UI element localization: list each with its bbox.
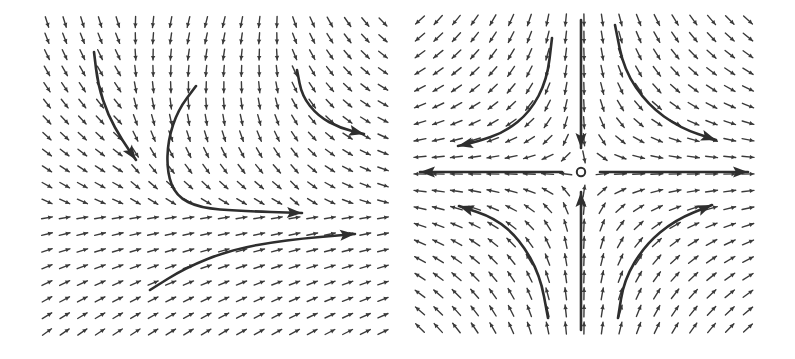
field-arrow-icon	[743, 307, 752, 315]
field-arrow-icon	[414, 155, 426, 159]
field-arrow-icon	[526, 238, 533, 248]
field-arrow-icon	[654, 15, 660, 26]
field-arrow-icon	[310, 17, 315, 27]
field-arrow-icon	[237, 182, 245, 189]
field-arrow-icon	[77, 232, 88, 236]
field-arrow-icon	[508, 15, 513, 26]
field-arrow-icon	[433, 68, 443, 75]
field-arrow-icon	[636, 305, 641, 316]
field-arrow-icon	[186, 49, 190, 60]
field-arrow-icon	[42, 215, 53, 219]
field-arrow-icon	[508, 32, 514, 43]
field-arrow-icon	[165, 232, 176, 236]
field-arrow-icon	[342, 264, 353, 268]
field-arrow-icon	[508, 323, 513, 334]
field-arrow-icon	[470, 273, 479, 281]
field-arrow-icon	[361, 84, 370, 91]
field-arrow-icon	[79, 99, 86, 108]
field-arrow-icon	[360, 200, 370, 204]
field-arrow-icon	[637, 14, 642, 25]
field-arrow-icon	[524, 205, 534, 212]
field-arrow-icon	[151, 17, 155, 28]
field-arrow-icon	[615, 188, 626, 193]
field-arrow-icon	[432, 189, 444, 193]
field-arrow-icon	[616, 136, 625, 144]
field-arrow-icon	[169, 82, 173, 93]
field-arrow-icon	[669, 189, 681, 193]
field-arrow-icon	[79, 83, 85, 92]
field-arrow-icon	[688, 223, 699, 228]
field-arrow-icon	[724, 206, 736, 210]
field-arrow-icon	[113, 329, 122, 335]
field-arrow-icon	[257, 33, 261, 44]
field-arrow-icon	[113, 199, 123, 204]
field-arrow-icon	[378, 330, 388, 335]
field-arrow-icon	[290, 297, 300, 302]
field-arrow-icon	[524, 188, 535, 193]
field-arrow-icon	[59, 232, 70, 236]
field-arrow-icon	[236, 215, 247, 219]
field-arrow-icon	[582, 305, 586, 317]
field-arrow-icon	[452, 256, 462, 263]
field-arrow-icon	[600, 14, 604, 26]
field-arrow-icon	[60, 264, 70, 269]
field-arrow-icon	[600, 288, 604, 300]
field-arrow-icon	[743, 51, 753, 58]
field-arrow-icon	[98, 50, 103, 60]
field-arrow-icon	[434, 33, 443, 41]
field-arrow-icon	[221, 164, 228, 173]
field-arrow-icon	[166, 264, 176, 268]
field-arrow-icon	[378, 281, 388, 285]
field-arrow-icon	[130, 215, 141, 219]
field-arrow-icon	[505, 155, 517, 159]
field-arrow-icon	[544, 118, 551, 128]
field-arrow-icon	[133, 17, 137, 28]
vector-field-figure	[0, 0, 795, 359]
field-arrow-icon	[219, 329, 229, 335]
field-arrow-icon	[293, 33, 298, 43]
field-arrow-icon	[360, 264, 371, 268]
field-arrow-icon	[201, 199, 211, 205]
saddle-point-marker	[577, 168, 585, 176]
field-arrow-icon	[61, 133, 69, 140]
field-arrow-icon	[653, 84, 661, 93]
field-arrow-icon	[59, 215, 70, 219]
field-arrow-icon	[221, 17, 225, 28]
field-arrow-icon	[77, 264, 87, 269]
field-arrow-icon	[470, 102, 480, 108]
field-arrow-icon	[636, 32, 641, 43]
field-arrow-icon	[204, 98, 208, 109]
field-arrow-icon	[240, 131, 244, 141]
field-arrow-icon	[563, 134, 568, 145]
field-arrow-icon	[507, 238, 515, 247]
field-arrow-icon	[453, 15, 461, 24]
field-arrow-icon	[237, 297, 247, 302]
field-arrow-icon	[327, 17, 332, 27]
field-arrow-icon	[290, 313, 300, 318]
field-arrow-icon	[525, 119, 534, 127]
field-arrow-icon	[113, 166, 122, 172]
field-arrow-icon	[416, 307, 425, 315]
field-arrow-icon	[131, 199, 141, 205]
field-arrow-icon	[653, 67, 660, 77]
field-arrow-icon	[378, 200, 389, 204]
field-arrow-icon	[360, 330, 370, 335]
field-arrow-icon	[275, 17, 279, 28]
field-arrow-icon	[725, 307, 734, 315]
field-arrow-icon	[707, 68, 717, 75]
field-arrow-icon	[672, 32, 679, 42]
field-arrow-icon	[688, 120, 699, 125]
field-arrow-icon	[219, 281, 229, 286]
field-arrow-icon	[222, 66, 226, 77]
field-arrow-icon	[201, 232, 212, 236]
field-arrow-icon	[707, 50, 716, 58]
field-arrow-icon	[289, 248, 300, 252]
field-arrow-icon	[490, 323, 496, 333]
field-arrow-icon	[292, 115, 298, 124]
field-arrow-icon	[275, 98, 279, 109]
field-arrow-icon	[634, 205, 644, 211]
field-arrow-icon	[706, 103, 717, 109]
field-arrow-icon	[254, 329, 264, 334]
field-arrow-icon	[434, 50, 443, 58]
field-arrow-icon	[414, 189, 426, 193]
